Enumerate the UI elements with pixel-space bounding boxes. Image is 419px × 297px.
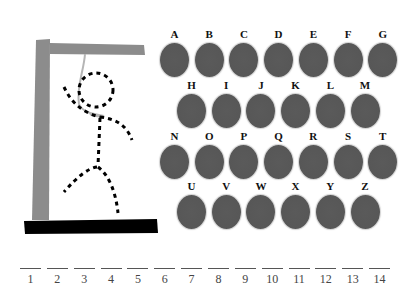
slot-underline	[262, 268, 283, 269]
letter-label: G	[368, 28, 397, 40]
letter-label: A	[160, 28, 189, 40]
letter-circle[interactable]	[351, 195, 380, 229]
letter-button[interactable]: B	[195, 28, 224, 78]
letter-circle[interactable]	[212, 94, 241, 128]
letter-button[interactable]: K	[281, 79, 310, 129]
letter-circle[interactable]	[334, 145, 363, 179]
letter-button[interactable]: F	[334, 28, 363, 78]
letter-label: J	[246, 79, 275, 91]
letter-button[interactable]: H	[177, 79, 206, 129]
letter-button[interactable]: Z	[351, 180, 380, 230]
letter-button[interactable]: C	[229, 28, 258, 78]
letter-button[interactable]: T	[368, 130, 397, 180]
slot-number: 9	[231, 272, 260, 287]
gallows-drawing	[0, 0, 160, 240]
slot-underline	[127, 268, 148, 269]
letter-circle[interactable]	[316, 195, 345, 229]
letter-button[interactable]: D	[264, 28, 293, 78]
slot-underline	[208, 268, 229, 269]
letter-circle[interactable]	[281, 94, 310, 128]
letter-slot: 5	[127, 268, 148, 290]
gallows-beam	[50, 43, 145, 55]
letter-label: U	[177, 180, 206, 192]
letter-circle[interactable]	[177, 195, 206, 229]
slot-underline	[74, 268, 95, 269]
letter-button[interactable]: M	[351, 79, 380, 129]
letter-slot: 11	[289, 268, 310, 290]
slot-underline	[369, 268, 390, 269]
letter-label: F	[334, 28, 363, 40]
slot-underline	[342, 268, 363, 269]
letter-slot: 13	[342, 268, 363, 290]
letter-label: C	[229, 28, 258, 40]
slot-underline	[235, 268, 256, 269]
letter-slot: 9	[235, 268, 256, 290]
slot-underline	[47, 268, 68, 269]
noose-rope	[78, 54, 104, 116]
letter-circle[interactable]	[334, 43, 363, 77]
letter-button[interactable]: I	[212, 79, 241, 129]
letter-button[interactable]: J	[246, 79, 275, 129]
letter-circle[interactable]	[229, 43, 258, 77]
slot-number: 11	[285, 272, 314, 287]
letter-button[interactable]: R	[299, 130, 328, 180]
letter-circle[interactable]	[281, 195, 310, 229]
letter-circle[interactable]	[246, 195, 275, 229]
gallows-post	[32, 39, 50, 220]
letter-circle[interactable]	[246, 94, 275, 128]
slot-number: 14	[365, 272, 394, 287]
letter-button[interactable]: S	[334, 130, 363, 180]
letter-circle[interactable]	[264, 145, 293, 179]
letter-button[interactable]: X	[281, 180, 310, 230]
letter-button[interactable]: G	[368, 28, 397, 78]
letter-slot: 3	[74, 268, 95, 290]
letter-circle[interactable]	[195, 43, 224, 77]
letter-circle[interactable]	[160, 145, 189, 179]
letter-button[interactable]: V	[212, 180, 241, 230]
slot-number: 5	[123, 272, 152, 287]
letter-button[interactable]: W	[246, 180, 275, 230]
letter-label: Y	[316, 180, 345, 192]
letter-circle[interactable]	[195, 145, 224, 179]
slot-underline	[315, 268, 336, 269]
slot-number: 10	[258, 272, 287, 287]
letter-button[interactable]: A	[160, 28, 189, 78]
letter-button[interactable]: O	[195, 130, 224, 180]
letter-circle[interactable]	[177, 94, 206, 128]
letter-circle[interactable]	[229, 145, 258, 179]
figure-left-leg	[64, 167, 97, 192]
slot-number: 2	[43, 272, 72, 287]
letter-circle[interactable]	[316, 94, 345, 128]
letter-label: O	[195, 130, 224, 142]
figure-right-arm	[100, 117, 132, 140]
letter-circle[interactable]	[351, 94, 380, 128]
slot-number: 12	[311, 272, 340, 287]
letter-label: D	[264, 28, 293, 40]
letter-circle[interactable]	[368, 145, 397, 179]
letter-button[interactable]: Q	[264, 130, 293, 180]
slot-underline	[20, 268, 41, 269]
letter-label: S	[334, 130, 363, 142]
letter-button[interactable]: U	[177, 180, 206, 230]
slot-underline	[289, 268, 310, 269]
letter-circle[interactable]	[160, 43, 189, 77]
letter-button[interactable]: N	[160, 130, 189, 180]
letter-circle[interactable]	[212, 195, 241, 229]
slot-number: 4	[97, 272, 126, 287]
letter-button[interactable]: L	[316, 79, 345, 129]
slot-underline	[181, 268, 202, 269]
slot-number: 7	[177, 272, 206, 287]
slot-number: 1	[16, 272, 45, 287]
letter-button[interactable]: E	[299, 28, 328, 78]
letter-button[interactable]: P	[229, 130, 258, 180]
letter-circle[interactable]	[299, 43, 328, 77]
letter-label: P	[229, 130, 258, 142]
figure-right-leg	[98, 167, 118, 213]
letter-label: T	[368, 130, 397, 142]
letter-circle[interactable]	[299, 145, 328, 179]
letter-circle[interactable]	[264, 43, 293, 77]
letter-label: M	[351, 79, 380, 91]
letter-label: E	[299, 28, 328, 40]
letter-button[interactable]: Y	[316, 180, 345, 230]
letter-circle[interactable]	[368, 43, 397, 77]
